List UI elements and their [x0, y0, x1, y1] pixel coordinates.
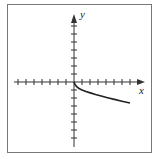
- frame: [8, 5, 152, 153]
- graph-figure: y x: [0, 0, 155, 159]
- y-axis-label: y: [79, 8, 85, 20]
- x-axis-label: x: [138, 84, 144, 96]
